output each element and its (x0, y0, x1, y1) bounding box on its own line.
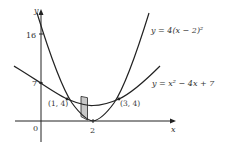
y-axis-arrow-icon (39, 9, 44, 15)
origin-label: 0 (33, 124, 38, 133)
x-axis-label: x (171, 125, 176, 134)
point-label-1-4: (1, 4) (48, 99, 68, 108)
steep-parabola-label: y = 4(x − 2)² (150, 26, 203, 35)
graph: y x 0 16 7 2 (1, 4) (3, 4) y = 4(x − 2)²… (0, 0, 228, 149)
y-axis-label: y (33, 6, 39, 15)
y-intercept-point (40, 82, 42, 84)
x-axis-arrow-icon (170, 119, 176, 124)
wide-parabola-label: y = x² − 4x + 7 (151, 79, 215, 88)
y-tick-label-7: 7 (32, 79, 37, 88)
x-tick-label-2: 2 (90, 126, 95, 135)
point-label-3-4: (3, 4) (120, 99, 140, 108)
y-tick-label-16: 16 (26, 31, 36, 40)
